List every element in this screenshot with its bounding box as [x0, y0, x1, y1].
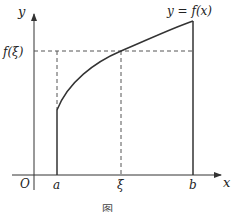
mean-value-diagram: y x O a ξ b f(ξ) y = f(x) 图 ..	[0, 0, 234, 212]
origin-label: O	[20, 177, 30, 191]
x-axis-label: x	[223, 175, 231, 190]
tick-xi-label: ξ	[117, 178, 125, 192]
tick-a-label: a	[53, 178, 60, 192]
function-curve	[57, 21, 193, 110]
tick-b-label: b	[189, 178, 197, 192]
curve-label: y = f(x)	[166, 4, 212, 18]
f-xi-label: f(ξ)	[2, 45, 24, 59]
y-axis-label: y	[17, 4, 26, 19]
figure-caption: 图 ..	[102, 204, 124, 212]
